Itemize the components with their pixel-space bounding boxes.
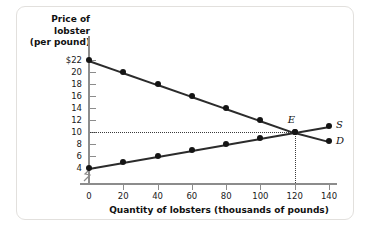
x-tick — [123, 185, 124, 190]
data-point-S — [86, 165, 92, 171]
curve-segment-D — [191, 96, 226, 110]
data-point-S — [155, 153, 161, 159]
y-axis-title-line-1: Price of — [18, 14, 90, 26]
y-tick-label: 6 — [42, 152, 82, 161]
y-axis-title-line-3: (per pound) — [18, 37, 90, 49]
x-tick-label: 120 — [280, 192, 310, 201]
x-tick — [158, 185, 159, 190]
y-tick — [90, 120, 96, 121]
y-tick-label: 10 — [42, 128, 82, 137]
curve-segment-D — [157, 84, 192, 98]
y-tick — [90, 108, 96, 109]
curve-segment-S — [192, 144, 227, 152]
curve-segment-S — [89, 162, 124, 170]
data-point-S — [223, 141, 229, 147]
curve-segment-S — [260, 132, 295, 140]
curve-segment-D — [225, 108, 260, 122]
y-tick-label: 12 — [42, 116, 82, 125]
x-axis-line — [80, 183, 337, 185]
data-point-S — [189, 147, 195, 153]
y-axis-title-line-2: lobster — [18, 26, 90, 38]
y-tick — [90, 156, 96, 157]
y-tick-label: 18 — [42, 80, 82, 89]
x-tick — [295, 185, 296, 190]
curve-segment-S — [295, 126, 330, 134]
curve-segment-S — [123, 156, 158, 164]
data-point-S — [120, 159, 126, 165]
lobster-supply-demand-figure: Price of lobster (per pound) 46810121416… — [0, 0, 373, 229]
y-tick-label: 20 — [42, 68, 82, 77]
data-point-D — [86, 57, 92, 63]
demand-curve-label: D — [336, 135, 344, 146]
curve-segment-S — [226, 138, 261, 146]
data-point-D — [326, 138, 332, 144]
equilibrium-label: E — [288, 114, 295, 125]
x-tick — [192, 185, 193, 190]
y-tick — [90, 84, 96, 85]
x-axis-title: Quantity of lobsters (thousands of pound… — [88, 205, 350, 215]
y-axis-title: Price of lobster (per pound) — [18, 14, 90, 49]
y-tick-label: 4 — [42, 164, 82, 173]
data-point-S — [292, 129, 298, 135]
equilibrium-price-guide — [90, 132, 295, 133]
y-tick — [90, 72, 96, 73]
data-point-D — [189, 93, 195, 99]
curve-segment-D — [123, 72, 158, 86]
x-tick-label: 80 — [211, 192, 241, 201]
y-tick-label: 16 — [42, 92, 82, 101]
y-tick — [90, 144, 96, 145]
x-tick-label: 20 — [108, 192, 138, 201]
x-tick — [226, 185, 227, 190]
data-point-D — [155, 81, 161, 87]
y-tick-label: 8 — [42, 140, 82, 149]
x-tick-label: 60 — [177, 192, 207, 201]
equilibrium-quantity-guide — [295, 132, 296, 183]
x-tick-label: 40 — [143, 192, 173, 201]
y-tick-label: $22 — [42, 56, 82, 65]
x-tick-label: 0 — [74, 192, 104, 201]
data-point-S — [326, 123, 332, 129]
y-tick-label: 14 — [42, 104, 82, 113]
curve-segment-S — [158, 150, 193, 158]
curve-segment-D — [294, 132, 329, 143]
x-tick — [260, 185, 261, 190]
plot-area: Price of lobster (per pound) 46810121416… — [0, 0, 373, 229]
y-tick — [90, 96, 96, 97]
supply-curve-label: S — [336, 119, 343, 130]
x-tick — [329, 185, 330, 190]
x-tick-label: 140 — [314, 192, 344, 201]
x-tick-label: 100 — [245, 192, 275, 201]
data-point-S — [257, 135, 263, 141]
